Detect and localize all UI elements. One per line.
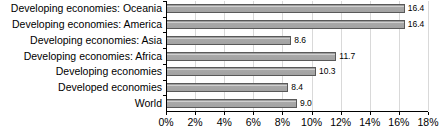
bar-value-label: 8.4: [288, 83, 303, 92]
x-tick-label: 10%: [301, 116, 322, 128]
x-tick-label: 8%: [275, 116, 290, 128]
x-tick-mark: [312, 112, 313, 115]
x-tick-mark: [166, 112, 167, 115]
x-tick-label: 14%: [359, 116, 380, 128]
x-tick-mark: [428, 112, 429, 115]
bar-chart: Developing economies: OceaniaDeveloping …: [0, 0, 442, 138]
category-label: Developing economies: America: [12, 17, 162, 32]
x-tick-mark: [282, 112, 283, 115]
bar-value-label: 16.4: [405, 4, 425, 13]
bar-series: 16.416.48.611.710.38.49.0: [166, 1, 428, 111]
bar: [166, 4, 405, 13]
bar: [166, 67, 316, 76]
plot-area: 16.416.48.611.710.38.49.0: [166, 1, 428, 111]
x-tick-label: 18%: [417, 116, 438, 128]
x-tick-mark: [195, 112, 196, 115]
x-tick-mark: [399, 112, 400, 115]
bar: [166, 36, 291, 45]
bar-value-label: 10.3: [316, 67, 336, 76]
category-label: Developed economies: [58, 80, 162, 95]
x-tick-mark: [341, 112, 342, 115]
category-label: Developing economies: Oceania: [11, 1, 162, 16]
bar-value-label: 16.4: [405, 20, 425, 29]
category-label: Developing economies: [56, 64, 162, 79]
category-label: Developing economies: Asia: [30, 33, 162, 48]
category-label: World: [135, 96, 162, 111]
x-tick-label: 6%: [246, 116, 261, 128]
x-tick-label: 4%: [217, 116, 232, 128]
gridline-0pct: [166, 1, 167, 111]
x-tick-label: 16%: [388, 116, 409, 128]
x-tick-mark: [253, 112, 254, 115]
x-tick-label: 2%: [188, 116, 203, 128]
bar: [166, 20, 405, 29]
x-tick-label: 12%: [330, 116, 351, 128]
bar: [166, 99, 297, 108]
bar-value-label: 9.0: [297, 99, 312, 108]
category-label: Developing economies: Africa: [24, 49, 162, 64]
x-axis-line: [166, 111, 428, 112]
gridline-18pct: [428, 1, 429, 111]
x-tick-mark: [224, 112, 225, 115]
x-tick-label: 0%: [158, 116, 173, 128]
bar: [166, 83, 288, 92]
bar-value-label: 11.7: [336, 52, 355, 61]
bar: [166, 52, 336, 61]
category-axis-labels: Developing economies: OceaniaDeveloping …: [0, 0, 164, 111]
bar-value-label: 8.6: [291, 36, 306, 45]
x-tick-mark: [370, 112, 371, 115]
